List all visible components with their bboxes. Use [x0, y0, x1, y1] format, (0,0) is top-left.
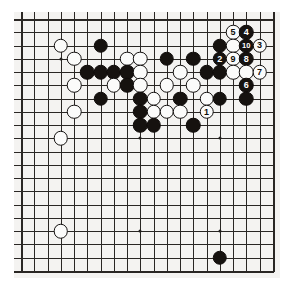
stone-move-number: 2 — [217, 54, 222, 63]
stone-black — [93, 91, 108, 106]
grid-line-horizontal — [14, 271, 274, 273]
stone-black — [146, 118, 161, 133]
star-point — [59, 57, 62, 60]
grid-line-vertical — [21, 12, 23, 272]
go-board-diagram: 15410329876 — [0, 0, 288, 299]
stone-black — [213, 91, 228, 106]
stone-black — [186, 52, 201, 67]
stone-move-number: 1 — [204, 107, 209, 116]
stone-move-number: 10 — [242, 42, 250, 50]
stone-white — [54, 224, 69, 239]
stone-white — [173, 105, 188, 120]
grid-line-vertical — [154, 12, 155, 272]
grid-line-horizontal — [14, 152, 274, 153]
grid-line-vertical — [207, 12, 208, 272]
grid-line-vertical — [48, 12, 49, 272]
grid-line-horizontal — [14, 165, 274, 166]
grid-line-vertical — [273, 12, 275, 272]
stone-move-number: 5 — [230, 28, 235, 37]
stone-white — [54, 131, 69, 146]
grid-line-vertical — [87, 12, 88, 272]
star-point — [218, 230, 221, 233]
stone-black — [93, 38, 108, 53]
grid-line-horizontal — [14, 218, 274, 219]
stone-move-number: 6 — [244, 81, 249, 90]
stone-black — [160, 52, 175, 67]
stone-move-number: 7 — [257, 68, 262, 77]
stone-move-number: 8 — [244, 54, 249, 63]
stone-white — [160, 78, 175, 93]
numbered-stone-white: 3 — [252, 38, 267, 53]
numbered-stone-white: 7 — [252, 65, 267, 80]
stone-white — [67, 105, 82, 120]
stone-move-number: 4 — [244, 28, 249, 37]
star-point — [139, 230, 142, 233]
star-point — [139, 137, 142, 140]
stone-white — [67, 52, 82, 67]
grid-line-horizontal — [14, 205, 274, 206]
go-board-surface: 15410329876 — [14, 12, 280, 278]
grid-line-horizontal — [14, 191, 274, 192]
stone-move-number: 3 — [257, 41, 262, 50]
grid-line-vertical — [114, 12, 115, 272]
grid-line-horizontal — [14, 244, 274, 245]
numbered-stone-white: 1 — [199, 105, 214, 120]
grid-line-horizontal — [14, 19, 274, 21]
star-point — [218, 137, 221, 140]
stone-white — [186, 78, 201, 93]
stone-move-number: 9 — [230, 54, 235, 63]
grid-line-vertical — [180, 12, 181, 272]
stone-black — [186, 118, 201, 133]
grid-line-vertical — [34, 12, 35, 272]
stone-white — [173, 65, 188, 80]
stone-black — [213, 250, 228, 265]
grid-line-horizontal — [14, 178, 274, 179]
grid-line-horizontal — [14, 258, 274, 259]
stone-white — [67, 78, 82, 93]
stone-white — [54, 38, 69, 53]
stone-black — [239, 91, 254, 106]
